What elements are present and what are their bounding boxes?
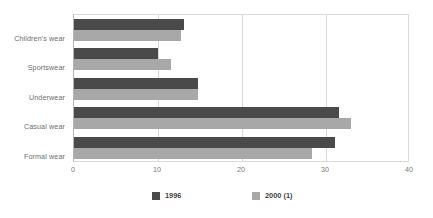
y-axis-tick-label: Children's wear bbox=[0, 34, 65, 43]
x-axis-tick-label: 20 bbox=[237, 165, 245, 174]
y-axis-labels: Children's wear Sportswear Underwear Cas… bbox=[0, 14, 69, 162]
y-axis-tick-label: Formal wear bbox=[0, 152, 65, 161]
bar-2000-1- bbox=[74, 59, 171, 70]
legend-label: 1996 bbox=[165, 191, 181, 200]
bar-2000-1- bbox=[74, 118, 351, 129]
bar-1996 bbox=[74, 19, 184, 30]
x-axis-tick-label: 30 bbox=[321, 165, 329, 174]
x-axis-tick-label: 40 bbox=[405, 165, 413, 174]
bar-1996 bbox=[74, 48, 158, 59]
chart-legend: 1996 2000 (1) bbox=[0, 191, 433, 205]
bar-1996 bbox=[74, 137, 335, 148]
bar-group bbox=[74, 137, 408, 159]
legend-item-2000[interactable]: 2000 (1) bbox=[252, 191, 293, 200]
bar-group bbox=[74, 48, 408, 70]
legend-swatch-icon bbox=[152, 192, 160, 200]
y-axis-tick-label: Casual wear bbox=[0, 122, 65, 131]
bar-group bbox=[74, 19, 408, 41]
legend-swatch-icon bbox=[252, 192, 260, 200]
legend-label: 2000 (1) bbox=[265, 191, 293, 200]
bar-2000-1- bbox=[74, 30, 181, 41]
y-axis-tick-label: Underwear bbox=[0, 93, 65, 102]
x-axis-tick-label: 10 bbox=[153, 165, 161, 174]
bars-layer bbox=[74, 15, 408, 161]
bar-chart: Children's wear Sportswear Underwear Cas… bbox=[0, 0, 433, 218]
y-axis-tick-label: Sportswear bbox=[0, 63, 65, 72]
x-axis-tick-label: 0 bbox=[71, 165, 75, 174]
bar-group bbox=[74, 107, 408, 129]
plot-area bbox=[73, 14, 409, 162]
bar-1996 bbox=[74, 107, 339, 118]
bar-2000-1- bbox=[74, 89, 198, 100]
bar-2000-1- bbox=[74, 148, 312, 159]
bar-group bbox=[74, 78, 408, 100]
bar-1996 bbox=[74, 78, 198, 89]
legend-item-1996[interactable]: 1996 bbox=[152, 191, 181, 200]
x-axis-labels: 010203040 bbox=[0, 165, 433, 177]
